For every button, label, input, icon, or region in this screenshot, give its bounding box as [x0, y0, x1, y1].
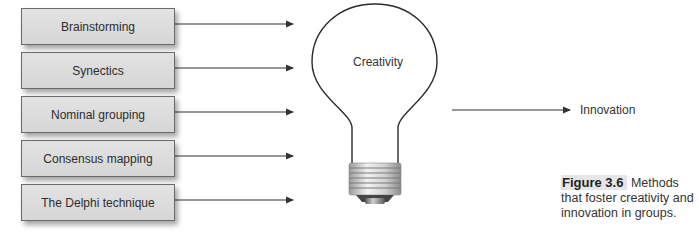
method-label: The Delphi technique — [41, 196, 154, 210]
method-box-nominal-grouping: Nominal grouping — [21, 96, 175, 133]
method-box-delphi-technique: The Delphi technique — [21, 184, 175, 221]
figure-number: Figure 3.6 — [561, 175, 627, 190]
lightbulb-icon — [312, 4, 437, 204]
method-arrows — [174, 24, 293, 200]
method-box-brainstorming: Brainstorming — [21, 8, 175, 45]
method-box-synectics: Synectics — [21, 52, 175, 89]
figure-caption: Figure 3.6 Methods that foster creativit… — [561, 175, 699, 221]
innovation-label: Innovation — [580, 103, 635, 117]
creativity-label: Creativity — [353, 55, 403, 69]
method-label: Consensus mapping — [43, 152, 152, 166]
method-label: Brainstorming — [61, 20, 135, 34]
method-label: Nominal grouping — [51, 108, 145, 122]
method-box-consensus-mapping: Consensus mapping — [21, 140, 175, 177]
method-label: Synectics — [72, 64, 123, 78]
